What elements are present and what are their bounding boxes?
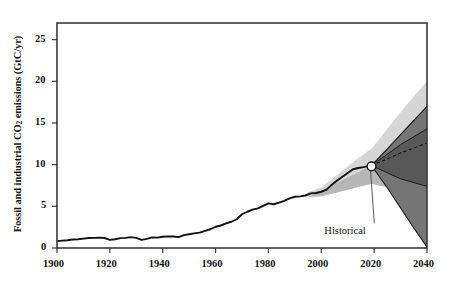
x-tick-label: 1920 <box>96 258 117 269</box>
y-tick-label: 15 <box>35 116 46 127</box>
y-tick-label: 20 <box>35 74 46 85</box>
y-tick-label: 10 <box>35 158 46 169</box>
y-axis-title-pre: Fossil and industrial CO <box>12 125 23 233</box>
x-tick-label: 1940 <box>149 258 170 269</box>
chart-svg <box>0 0 450 289</box>
annotation-historical-label: Historical <box>324 225 365 236</box>
y-axis-title-post: emissions (GtC/yr) <box>12 36 23 121</box>
historical-endpoint-marker[interactable] <box>367 162 376 171</box>
x-tick-label: 2040 <box>413 258 434 269</box>
y-tick-label: 0 <box>41 241 46 252</box>
y-axis-title-subscript: 2 <box>15 121 24 125</box>
y-tick-label: 25 <box>35 33 46 44</box>
y-tick-label: 5 <box>41 199 46 210</box>
x-tick-label: 2020 <box>360 258 381 269</box>
x-tick-label: 1960 <box>202 258 223 269</box>
x-tick-label: 1900 <box>43 258 64 269</box>
y-axis-title: Fossil and industrial CO2 emissions (GtC… <box>12 19 24 249</box>
x-tick-label: 1980 <box>254 258 275 269</box>
x-tick-label: 2000 <box>307 258 328 269</box>
